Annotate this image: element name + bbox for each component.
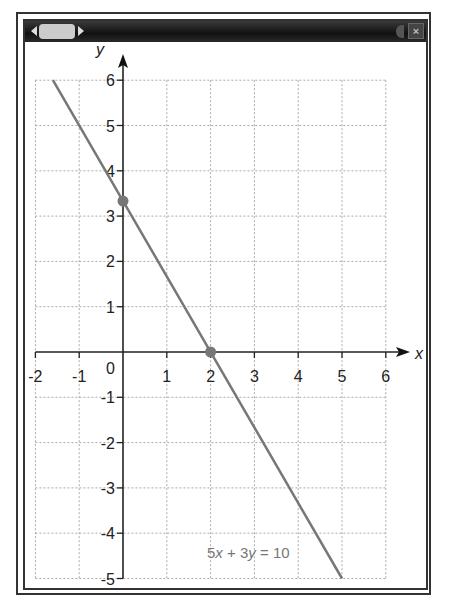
x-tick-label: -2 (28, 368, 42, 385)
point-marker (205, 347, 216, 358)
tick-labels: -2-1123456-5-4-3-2-11234560 (28, 72, 390, 587)
x-tick-label: 2 (206, 368, 215, 385)
x-tick-label: -1 (72, 368, 86, 385)
y-tick-label: -1 (101, 389, 115, 406)
y-tick-label: -3 (101, 480, 115, 497)
y-tick-label: 1 (106, 299, 115, 316)
equation-label: 5x + 3y = 10 (207, 544, 290, 561)
point-marker (118, 196, 129, 207)
x-tick-label: 3 (250, 368, 259, 385)
x-tick-label: 1 (162, 368, 171, 385)
origin-label: 0 (106, 360, 115, 377)
chart: -2-1123456-5-4-3-2-11234560 x y 5x + 3y … (0, 0, 449, 606)
x-tick-label: 5 (338, 368, 347, 385)
y-tick-label: -2 (101, 435, 115, 452)
y-tick-label: 3 (106, 208, 115, 225)
y-axis-label: y (95, 41, 105, 58)
x-axis-label: x (414, 345, 424, 362)
axes (35, 54, 410, 579)
y-tick-label: 6 (106, 72, 115, 89)
x-tick-label: 4 (294, 368, 303, 385)
y-tick-label: 2 (106, 253, 115, 270)
y-tick-label: -4 (101, 525, 115, 542)
x-tick-label: 6 (381, 368, 390, 385)
y-tick-label: -5 (101, 571, 115, 588)
grid (35, 80, 385, 578)
y-tick-label: 5 (106, 118, 115, 135)
